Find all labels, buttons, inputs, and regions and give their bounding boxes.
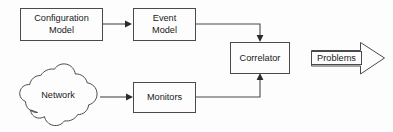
- edge-monitors-to-correlator: [196, 73, 263, 97]
- arrow-head-right-icon: [126, 94, 133, 101]
- configuration-model-label-line1: Configuration: [34, 13, 89, 23]
- edge-line: [196, 24, 260, 37]
- node-problems[interactable]: Problems: [312, 43, 385, 75]
- event-model-label-line2: Model: [152, 25, 177, 35]
- node-configuration-model[interactable]: Configuration Model: [21, 9, 103, 41]
- monitors-label: Monitors: [147, 92, 183, 102]
- node-monitors[interactable]: Monitors: [134, 83, 196, 113]
- node-network[interactable]: Network: [20, 64, 97, 126]
- arrow-head-up-icon: [257, 73, 264, 80]
- arrow-head-down-icon: [257, 35, 264, 42]
- diagram-svg: Configuration Model Event Model Correlat…: [0, 0, 393, 132]
- diagram-canvas: Configuration Model Event Model Correlat…: [0, 0, 393, 132]
- correlator-label-line1: Correlator: [240, 53, 281, 63]
- edge-line: [196, 79, 260, 97]
- configuration-model-label-line2: Model: [49, 25, 74, 35]
- edge-event-model-to-correlator: [196, 24, 263, 42]
- edge-network-to-monitors: [100, 94, 133, 101]
- network-label: Network: [41, 90, 75, 100]
- arrow-head-right-icon: [125, 21, 132, 28]
- problems-label: Problems: [317, 53, 356, 63]
- node-correlator[interactable]: Correlator: [231, 43, 290, 74]
- event-model-label-line1: Event: [153, 13, 177, 23]
- node-event-model[interactable]: Event Model: [134, 9, 196, 41]
- edge-configuration-model-to-event-model: [102, 21, 132, 28]
